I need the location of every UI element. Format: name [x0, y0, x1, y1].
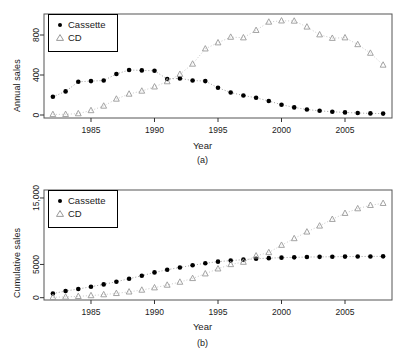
- data-point-cd: [228, 261, 234, 266]
- data-point-cassette: [203, 79, 208, 84]
- panel-caption-a: (a): [0, 155, 405, 165]
- panel-b: 198519901995200020050500015,000 Cumulati…: [0, 172, 405, 358]
- legend-label-cassette: Cassette: [68, 18, 106, 31]
- series-line-cassette: [53, 70, 383, 114]
- y-tick-label: 15,000: [31, 185, 41, 211]
- data-point-cd: [190, 61, 196, 66]
- legend-item-cd: CD: [53, 207, 111, 220]
- data-point-cd: [279, 18, 285, 23]
- data-point-cassette: [343, 254, 348, 259]
- data-point-cd: [101, 291, 107, 296]
- y-tick-label: 0: [31, 112, 41, 117]
- data-point-cassette: [381, 254, 386, 259]
- data-point-cd: [355, 41, 361, 46]
- x-tick-label: 1995: [209, 307, 228, 317]
- data-point-cd: [63, 111, 69, 116]
- data-point-cassette: [228, 90, 233, 95]
- data-point-cassette: [140, 68, 145, 73]
- data-point-cassette: [368, 254, 373, 259]
- data-point-cassette: [51, 95, 56, 100]
- y-tick-label: 400: [31, 68, 41, 82]
- data-point-cassette: [317, 109, 322, 114]
- data-point-cd: [253, 27, 259, 32]
- legend-label-cd: CD: [68, 31, 82, 44]
- data-point-cassette: [140, 273, 145, 278]
- data-point-cd: [228, 34, 234, 39]
- data-point-cd: [139, 88, 145, 93]
- data-point-cassette: [368, 111, 373, 116]
- data-point-cassette: [101, 282, 106, 287]
- data-point-cd: [113, 96, 119, 101]
- legend-a: Cassette CD: [48, 14, 118, 52]
- x-tick-label: 1985: [82, 307, 101, 317]
- data-point-cassette: [305, 107, 310, 112]
- data-point-cd: [88, 107, 94, 112]
- figure-container: 198519901995200020050400800 Annual sales…: [0, 0, 405, 358]
- data-point-cassette: [114, 279, 119, 284]
- data-point-cassette: [76, 287, 81, 292]
- data-point-cassette: [267, 256, 272, 261]
- data-point-cd: [329, 35, 335, 40]
- data-point-cassette: [127, 68, 132, 73]
- data-point-cassette: [254, 96, 259, 101]
- data-point-cd: [291, 18, 297, 23]
- data-point-cassette: [267, 99, 272, 104]
- x-tick-label: 2005: [336, 125, 355, 135]
- data-point-cassette: [279, 255, 284, 260]
- data-point-cassette: [305, 255, 310, 260]
- data-point-cd: [202, 271, 208, 276]
- data-point-cd: [291, 235, 297, 240]
- data-point-cassette: [203, 261, 208, 266]
- data-point-cassette: [114, 72, 119, 77]
- data-point-cassette: [355, 111, 360, 116]
- data-point-cassette: [190, 263, 195, 268]
- panel-a: 198519901995200020050400800 Annual sales…: [0, 0, 405, 172]
- x-tick-label: 1990: [145, 307, 164, 317]
- x-axis-label-b: Year: [0, 321, 405, 332]
- data-point-cassette: [152, 69, 157, 74]
- data-point-cd: [215, 39, 221, 44]
- data-point-cd: [279, 242, 285, 247]
- data-point-cassette: [76, 80, 81, 85]
- data-point-cassette: [241, 93, 246, 98]
- data-point-cassette: [317, 255, 322, 260]
- data-point-cassette: [127, 276, 132, 281]
- data-point-cassette: [190, 78, 195, 83]
- data-point-cd: [190, 275, 196, 280]
- data-point-cassette: [101, 78, 106, 83]
- data-point-cassette: [165, 267, 170, 272]
- data-point-cd: [342, 34, 348, 39]
- data-point-cd: [368, 50, 374, 55]
- data-point-cassette: [292, 255, 297, 260]
- data-point-cd: [241, 34, 247, 39]
- data-point-cd: [63, 294, 69, 299]
- data-point-cd: [202, 46, 208, 51]
- legend-item-cassette: Cassette: [53, 18, 111, 31]
- x-tick-label: 1985: [82, 125, 101, 135]
- data-point-cd: [113, 290, 119, 295]
- data-point-cd: [88, 292, 94, 297]
- data-point-cassette: [89, 79, 94, 84]
- panel-caption-b: (b): [0, 338, 405, 348]
- filled-circle-icon: [53, 199, 66, 203]
- open-triangle-icon: [53, 34, 66, 41]
- data-point-cd: [342, 210, 348, 215]
- data-point-cassette: [279, 102, 284, 107]
- data-point-cd: [152, 284, 158, 289]
- data-point-cd: [177, 71, 183, 76]
- data-point-cd: [317, 31, 323, 36]
- x-axis-label-a: Year: [0, 140, 405, 151]
- data-point-cd: [215, 266, 221, 271]
- y-axis-label-b: Cumulative sales: [12, 228, 22, 298]
- open-triangle-icon: [53, 210, 66, 217]
- data-point-cd: [317, 223, 323, 228]
- data-point-cassette: [216, 259, 221, 264]
- legend-item-cassette: Cassette: [53, 194, 111, 207]
- data-point-cd: [139, 287, 145, 292]
- x-tick-label: 1995: [209, 125, 228, 135]
- x-tick-label: 2000: [272, 125, 291, 135]
- legend-label-cassette: Cassette: [68, 194, 106, 207]
- data-point-cassette: [292, 105, 297, 110]
- y-tick-label: 5000: [31, 255, 41, 274]
- data-point-cassette: [216, 86, 221, 91]
